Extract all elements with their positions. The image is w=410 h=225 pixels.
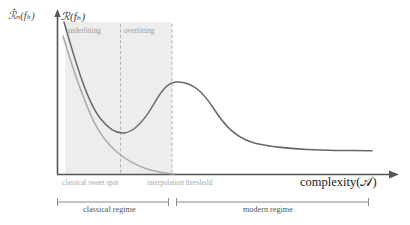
shaded-band-classical xyxy=(65,22,172,174)
double-descent-figure: ℛ̂ₙ(fₕ) ℛ(fₕ) complexity(𝒜) underfitting… xyxy=(0,0,410,225)
y-axis-label-empirical-risk: ℛ̂ₙ(fₕ) xyxy=(8,11,35,22)
regime-label-classical: classical regime xyxy=(83,206,136,214)
region-label-overfitting: overfitting xyxy=(124,28,154,35)
regime-label-modern: modern regime xyxy=(243,206,293,214)
y-axis-label-risk: ℛ(fₕ) xyxy=(61,11,85,22)
x-axis-label-complexity: complexity(𝒜) xyxy=(300,176,377,189)
tick-label-classical-sweet-spot: classical sweet spot xyxy=(62,180,118,187)
y-axis xyxy=(54,9,60,174)
region-label-underfitting: underfitting xyxy=(67,28,101,35)
risk-curve-plot xyxy=(0,0,410,225)
tick-label-interpolation-threshold: interpolation threshold xyxy=(147,180,212,187)
